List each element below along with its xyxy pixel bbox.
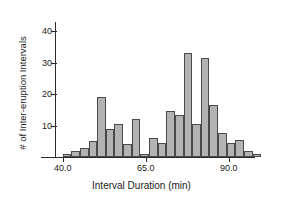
- histogram-bar: [175, 115, 184, 157]
- histogram-bar: [80, 148, 89, 157]
- histogram-bar: [184, 53, 193, 157]
- y-tick-label: 20: [42, 90, 52, 99]
- histogram-bar: [89, 141, 98, 157]
- y-axis-title: # of Inter-eruption Intervals: [18, 18, 28, 168]
- histogram-bar: [132, 119, 141, 157]
- x-tick-mark: [229, 157, 230, 162]
- histogram-bar: [106, 129, 115, 157]
- x-axis-title: Interval Duration (min): [0, 180, 283, 191]
- histogram-bar: [227, 143, 236, 157]
- histogram-bar: [158, 143, 167, 157]
- histogram-bar: [149, 138, 158, 157]
- x-tick-label: 90.0: [220, 164, 238, 173]
- y-tick-label: 10: [42, 121, 52, 130]
- x-tick-mark: [146, 157, 147, 162]
- plot-area: [56, 22, 252, 157]
- histogram-bar: [201, 58, 210, 157]
- histogram-bar: [97, 97, 106, 157]
- histogram-bar: [218, 133, 227, 157]
- histogram-bar: [209, 105, 218, 157]
- histogram-figure: 10203040 # of Inter-eruption Intervals 4…: [0, 0, 283, 206]
- histogram-bar: [235, 140, 244, 157]
- x-axis-line: [41, 157, 255, 158]
- y-tick-label: 30: [42, 58, 52, 67]
- histogram-bar: [114, 124, 123, 157]
- x-tick-label: 65.0: [137, 164, 155, 173]
- histogram-bar: [123, 144, 132, 157]
- y-tick-label: 40: [42, 27, 52, 36]
- histogram-bar: [192, 124, 201, 157]
- x-tick-mark: [63, 157, 64, 162]
- histogram-bar: [166, 111, 175, 157]
- x-tick-label: 40.0: [54, 164, 72, 173]
